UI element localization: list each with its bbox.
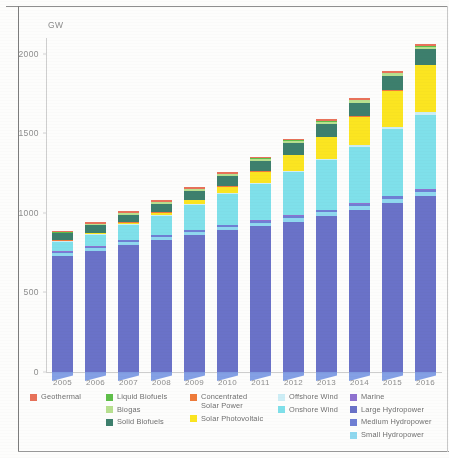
stacked-bar[interactable]	[151, 200, 172, 372]
stacked-bar[interactable]	[250, 157, 271, 372]
legend-item[interactable]: Biogas	[106, 405, 190, 414]
legend-label: Offshore Wind	[289, 392, 338, 401]
bar-segment	[382, 76, 403, 90]
page-frame-bottom	[18, 451, 449, 452]
bar-segment	[316, 124, 337, 136]
legend-marker-icon	[350, 419, 357, 426]
page-frame-top	[6, 6, 447, 7]
legend-marker-icon	[278, 394, 285, 401]
legend-item[interactable]: Marine	[350, 392, 440, 401]
stacked-bar[interactable]	[415, 44, 436, 372]
y-tick-label: 1000	[18, 208, 39, 218]
legend-item[interactable]: Offshore Wind	[278, 392, 350, 401]
bar-segment	[52, 233, 73, 240]
legend-column: Concentrated Solar PowerSolar Photovolta…	[190, 392, 278, 450]
legend-marker-icon	[106, 406, 113, 413]
legend-label: Medium Hydropower	[361, 417, 432, 426]
stacked-bar[interactable]	[349, 98, 370, 372]
bar-segment	[316, 160, 337, 209]
bar-segment	[349, 210, 370, 372]
legend-label: Concentrated Solar Power	[201, 392, 247, 410]
legend-label: Solar Photovoltaic	[201, 414, 263, 423]
x-tick-label: 2016	[406, 378, 446, 387]
bar-segment	[52, 256, 73, 372]
legend-label: Geothermal	[41, 392, 81, 401]
stacked-bar[interactable]	[118, 211, 139, 372]
y-tick-mark	[43, 53, 46, 54]
bar-segment	[52, 242, 73, 251]
bar-segment	[283, 172, 304, 215]
bar-segment	[151, 240, 172, 372]
bar-segment	[184, 191, 205, 200]
page-frame-left	[18, 6, 19, 452]
bar-segment	[184, 205, 205, 230]
legend-label: Large Hydropower	[361, 405, 424, 414]
legend-marker-icon	[350, 432, 357, 439]
legend-item[interactable]: Onshore Wind	[278, 405, 350, 414]
legend-marker-icon	[106, 419, 113, 426]
bar-segment	[250, 184, 271, 220]
chart-figure: GW 0500100015002000 20052006200720082009…	[0, 0, 449, 458]
page-frame-right	[447, 6, 448, 452]
y-tick-label: 2000	[18, 49, 39, 59]
legend-item[interactable]: Solid Biofuels	[106, 417, 190, 426]
legend-label: Onshore Wind	[289, 405, 338, 414]
bar-segment	[382, 129, 403, 195]
legend-marker-icon	[350, 394, 357, 401]
bar-segment	[85, 235, 106, 246]
bar-segment	[415, 115, 436, 189]
legend-marker-icon	[350, 406, 357, 413]
legend-column: Offshore WindOnshore Wind	[278, 392, 350, 450]
legend-item[interactable]: Concentrated Solar Power	[190, 392, 278, 410]
bar-segment	[151, 216, 172, 235]
bar-segment	[184, 235, 205, 372]
bar-segment	[349, 147, 370, 203]
chart-legend: GeothermalLiquid BiofuelsBiogasSolid Bio…	[30, 392, 440, 450]
legend-item[interactable]: Large Hydropower	[350, 405, 440, 414]
stacked-bar[interactable]	[316, 119, 337, 372]
bar-segment	[316, 137, 337, 159]
legend-label: Marine	[361, 392, 385, 401]
y-tick-mark	[43, 372, 46, 373]
y-tick-label: 0	[34, 367, 39, 377]
legend-marker-icon	[278, 406, 285, 413]
plot-area: 0500100015002000 20052006200720082009201…	[46, 38, 442, 372]
bar-segment	[250, 172, 271, 183]
legend-label: Solid Biofuels	[117, 417, 164, 426]
bar-segment	[349, 117, 370, 145]
bar-segment	[250, 226, 271, 372]
legend-item[interactable]: Small Hydropower	[350, 430, 440, 439]
legend-item[interactable]: Medium Hydropower	[350, 417, 440, 426]
stacked-bar[interactable]	[217, 172, 238, 372]
legend-column: Geothermal	[30, 392, 106, 450]
y-tick-mark	[43, 292, 46, 293]
y-tick-label: 500	[24, 287, 39, 297]
bar-segment	[250, 161, 271, 172]
bar-segment	[283, 143, 304, 154]
stacked-bar[interactable]	[382, 71, 403, 372]
bar-segment	[283, 222, 304, 372]
legend-marker-icon	[30, 394, 37, 401]
legend-marker-icon	[190, 394, 197, 401]
stacked-bar[interactable]	[283, 139, 304, 372]
stacked-bar[interactable]	[52, 231, 73, 372]
stacked-bar[interactable]	[184, 187, 205, 372]
bar-segment	[151, 204, 172, 212]
bar-segment	[415, 196, 436, 372]
stacked-bar[interactable]	[85, 222, 106, 372]
bar-segment	[349, 103, 370, 116]
legend-item[interactable]: Liquid Biofuels	[106, 392, 190, 401]
bar-segment	[415, 49, 436, 64]
bar-segment	[118, 215, 139, 223]
legend-item[interactable]: Solar Photovoltaic	[190, 414, 278, 423]
legend-column: MarineLarge HydropowerMedium HydropowerS…	[350, 392, 440, 450]
legend-label: Small Hydropower	[361, 430, 424, 439]
bar-segment	[415, 65, 436, 112]
legend-item[interactable]: Geothermal	[30, 392, 106, 401]
bar-segment	[316, 216, 337, 372]
bar-segment	[382, 203, 403, 372]
y-tick-mark	[43, 212, 46, 213]
legend-marker-icon	[190, 415, 197, 422]
y-tick-mark	[43, 133, 46, 134]
bar-segment	[382, 91, 403, 127]
